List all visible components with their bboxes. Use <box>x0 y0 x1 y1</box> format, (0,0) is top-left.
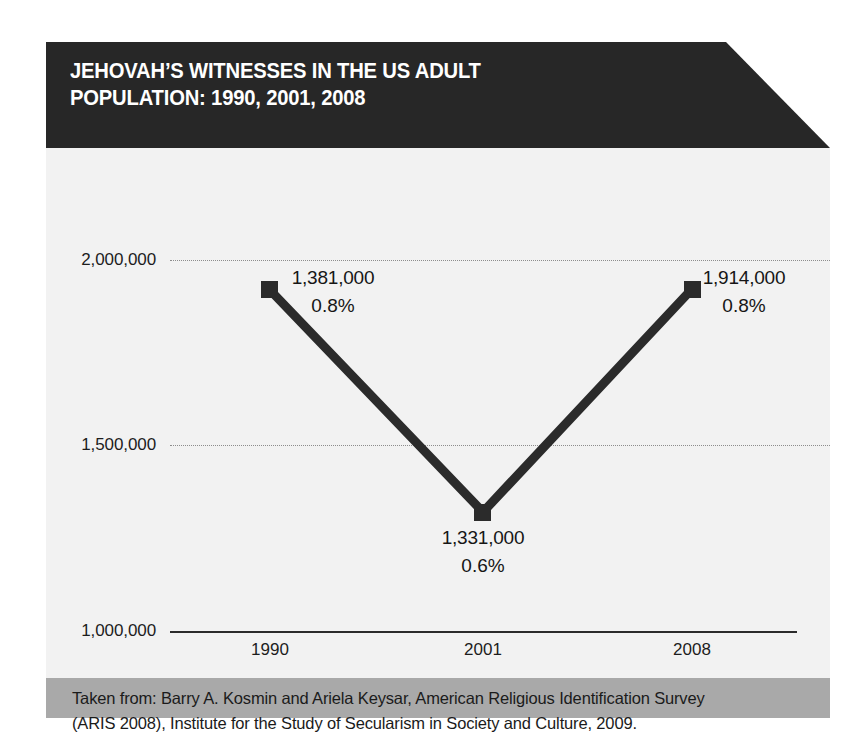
series-polyline <box>269 289 692 512</box>
source-caption-line-1: Taken from: Barry A. Kosmin and Ariela K… <box>72 686 802 711</box>
source-caption-band: Taken from: Barry A. Kosmin and Ariela K… <box>46 678 830 718</box>
data-label-value-1990: 1,381,000 <box>238 267 428 289</box>
chart-title-line-2: POPULATION: 1990, 2001, 2008 <box>70 85 653 112</box>
data-label-value-2008: 1,914,000 <box>649 267 839 289</box>
source-caption: Taken from: Barry A. Kosmin and Ariela K… <box>72 686 802 736</box>
x-axis-tick-label-1990: 1990 <box>210 640 330 660</box>
data-label-percent-2001: 0.6% <box>388 555 578 577</box>
data-series-line <box>46 148 830 678</box>
chart-figure: JEHOVAH’S WITNESSES IN THE US ADULT POPU… <box>46 42 830 718</box>
source-caption-line-2: (ARIS 2008), Institute for the Study of … <box>72 711 802 736</box>
data-label-percent-2008: 0.8% <box>649 295 839 317</box>
x-axis-tick-label-2001: 2001 <box>423 640 543 660</box>
title-banner: JEHOVAH’S WITNESSES IN THE US ADULT POPU… <box>46 42 830 148</box>
data-label-percent-1990: 0.8% <box>238 295 428 317</box>
data-point-marker-2001 <box>474 504 491 521</box>
x-axis-tick-label-2008: 2008 <box>632 640 752 660</box>
chart-plot-area: 2,000,000 1,500,000 1,000,000 1,381,000 … <box>46 148 830 678</box>
chart-title-line-1: JEHOVAH’S WITNESSES IN THE US ADULT <box>70 58 653 85</box>
data-label-value-2001: 1,331,000 <box>388 527 578 549</box>
chart-title: JEHOVAH’S WITNESSES IN THE US ADULT POPU… <box>70 58 653 112</box>
